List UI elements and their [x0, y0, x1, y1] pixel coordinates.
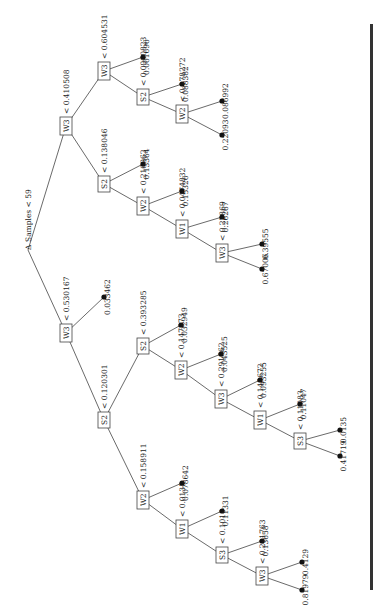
leaf-value: 0.061696 — [142, 39, 151, 75]
split-node: S2 < 0.120301 — [98, 365, 110, 428]
svg-text:S3: S3 — [218, 550, 227, 560]
svg-text:< 0.393285: < 0.393285 — [139, 290, 148, 335]
svg-text:< 0.604531: < 0.604531 — [100, 15, 109, 59]
svg-text:W3: W3 — [62, 119, 71, 132]
svg-text:W2: W2 — [139, 199, 148, 212]
svg-text:W3: W3 — [217, 392, 226, 405]
svg-text:W2: W2 — [177, 363, 186, 376]
svg-text:W3: W3 — [258, 569, 267, 582]
split-node: W2 < 0.158911 — [137, 444, 149, 509]
split-node: S2 < 0.138046 — [98, 128, 110, 192]
svg-text:W3: W3 — [62, 326, 71, 339]
svg-text:W3: W3 — [218, 246, 227, 259]
svg-text:W3: W3 — [100, 64, 109, 77]
svg-text:< 0.158911: < 0.158911 — [139, 444, 148, 488]
svg-text:S2: S2 — [139, 92, 148, 102]
leaf-value: 0.043525 — [220, 336, 229, 372]
leaf-value: 0.26267 — [221, 201, 230, 232]
split-node: W3 < 0.530167 — [60, 276, 72, 342]
svg-text:S2: S2 — [100, 415, 109, 425]
leaf-value: 0.67006 — [261, 253, 270, 284]
leaf-value: 0.088382 — [181, 66, 190, 102]
leaf-value: 0.4129 — [301, 549, 310, 575]
leaf-value: 0.11331 — [221, 495, 230, 526]
leaf-value: 0.13364 — [142, 148, 151, 179]
svg-text:W1: W1 — [178, 223, 187, 235]
page-edge-rule — [370, 24, 373, 590]
leaf-value: 0.078642 — [181, 465, 190, 501]
leaf-value: 0.11047 — [299, 388, 308, 419]
leaf-value: 0.086992 — [221, 83, 230, 119]
svg-text:S2: S2 — [139, 341, 148, 351]
svg-text:S2: S2 — [100, 179, 109, 189]
root-symbol: Δ — [24, 244, 33, 250]
leaf-value: 0.41719 — [339, 440, 348, 471]
svg-text:< 0.530167: < 0.530167 — [62, 276, 71, 321]
decision-tree-diagram: Δ Samples < 59 W3 < 0.410508 W3 < 0.6045… — [0, 0, 381, 614]
svg-text:< 0.120301: < 0.120301 — [100, 365, 109, 409]
leaf-value: 0.13658 — [261, 525, 270, 556]
svg-text:W2: W2 — [139, 493, 148, 506]
svg-text:W2: W2 — [178, 107, 187, 120]
svg-text:S3: S3 — [296, 436, 305, 446]
leaf-value: 0.0135 — [339, 417, 348, 443]
root-condition: Samples < 59 — [24, 189, 33, 242]
leaf-value: 0.81979 — [301, 574, 310, 605]
svg-text:W1: W1 — [178, 523, 187, 535]
root-node: Δ Samples < 59 — [24, 189, 33, 250]
leaf-value: 0.033462 — [103, 279, 112, 315]
leaf-value: 0.093255 — [259, 362, 268, 398]
leaf-value: 0.22093 — [221, 119, 230, 150]
leaf-value: 0.15326 — [181, 175, 190, 206]
split-node: W3 < 0.410508 — [60, 69, 72, 135]
svg-text:< 0.138046: < 0.138046 — [100, 128, 109, 173]
leaf-value: 0.032949 — [180, 307, 189, 343]
split-node: W3 < 0.604531 — [98, 15, 110, 80]
svg-text:< 0.410508: < 0.410508 — [62, 69, 71, 114]
split-node: S2 < 0.393285 — [137, 290, 149, 354]
svg-text:W1: W1 — [256, 414, 265, 426]
